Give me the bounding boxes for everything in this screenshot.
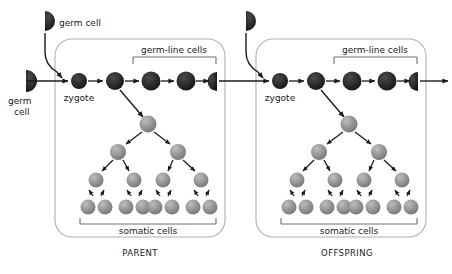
parent-somatic-l3-1 xyxy=(89,173,104,188)
parent-somatic-arrow-l2-l3-d xyxy=(183,160,195,171)
parent-somatic-l4-3 xyxy=(119,200,134,215)
offspring-somatic-arrow-l2-l3-a xyxy=(303,160,314,171)
offspring-caption: OFFSPRING xyxy=(321,248,373,258)
offspring-somatic-arrow-l3-l4-g xyxy=(395,190,399,196)
parent-somatic-l3-2 xyxy=(127,173,142,188)
parent-somatic-l2-1 xyxy=(110,144,126,160)
offspring-somatic-arrow-l2-l3-d xyxy=(384,160,396,171)
offspring-somatic-arrow-l2-l3-c xyxy=(369,160,374,171)
parent-somatic-arrow-l2-l3-a xyxy=(102,160,113,171)
parent-germline-bracket xyxy=(133,57,216,64)
parent-somatic-l4-7 xyxy=(186,200,201,215)
offspring-somatic-arrow-l1-l2-a xyxy=(327,132,343,144)
top-left-germ-cell-label: germ cell xyxy=(59,18,101,28)
offspring-germline-label: germ-line cells xyxy=(342,45,408,55)
offspring-somatic-label: somatic cells xyxy=(320,226,379,236)
parent-somatic-arrow-l1-l2-b xyxy=(154,132,170,144)
left-germ-cell-label-line1: germ xyxy=(8,96,32,106)
parent-somatic-l2-2 xyxy=(170,144,186,160)
parent-somatic-branch-arrow xyxy=(120,90,143,117)
parent-somatic-l4-5 xyxy=(148,200,163,215)
parent-somatic-arrow-l2-l3-b xyxy=(123,160,129,171)
offspring-somatic-arrow-l3-l4-b xyxy=(302,190,305,196)
offspring-somatic-l4-3 xyxy=(320,200,335,215)
parent-caption: PARENT xyxy=(122,248,158,258)
parent-somatic-arrow-l3-l4-g xyxy=(194,190,198,196)
parent-germline-cell-2 xyxy=(106,72,124,90)
left-germ-cell-label-line2: cell xyxy=(14,107,30,117)
offspring-somatic-l2-1 xyxy=(311,144,327,160)
offspring-somatic-l4-2 xyxy=(299,200,314,215)
parent-somatic-arrow-l3-l4-f xyxy=(168,190,171,196)
offspring-somatic-arrow-l2-l3-b xyxy=(324,160,330,171)
offspring-germline-bracket xyxy=(334,57,417,64)
parent-zygote-cell xyxy=(71,73,87,89)
lineage-diagram-svg: germ cell germ cell germ-line cells zygo… xyxy=(0,0,452,274)
parent-somatic-arrow-l3-l4-a xyxy=(89,190,93,196)
offspring-somatic-arrow-l1-l2-b xyxy=(355,132,371,144)
parent-somatic-arrow-l3-l4-c xyxy=(127,190,131,196)
parent-somatic-l3-3 xyxy=(156,173,171,188)
offspring-somatic-l4-8 xyxy=(404,200,419,215)
parent-somatic-arrow-l3-l4-h xyxy=(206,190,209,196)
parent-germline-cell-3 xyxy=(142,72,161,91)
parent-somatic-l4-6 xyxy=(165,200,180,215)
parent-somatic-l4-2 xyxy=(98,200,113,215)
parent-somatic-arrow-l2-l3-c xyxy=(168,160,173,171)
parent-somatic-arrow-l1-l2-a xyxy=(126,132,142,144)
offspring-somatic-arrow-l3-l4-h xyxy=(407,190,410,196)
diagram-canvas: germ cell germ cell germ-line cells zygo… xyxy=(0,0,452,274)
offspring-zygote-cell xyxy=(272,73,288,89)
parent-somatic-l3-4 xyxy=(194,173,209,188)
offspring-somatic-arrow-l3-l4-f xyxy=(369,190,372,196)
parent-somatic-label: somatic cells xyxy=(119,226,178,236)
parent-somatic-arrow-l3-l4-d xyxy=(139,190,142,196)
offspring-somatic-arrow-l3-l4-d xyxy=(340,190,343,196)
parent-germline-label: germ-line cells xyxy=(141,45,207,55)
parent-zygote-label: zygote xyxy=(64,93,95,103)
offspring-germline-cell-3 xyxy=(343,72,362,91)
offspring-somatic-bracket xyxy=(281,218,417,224)
parent-panel: germ-line cells zygote xyxy=(64,45,218,236)
offspring-somatic-arrow-l3-l4-e xyxy=(357,190,361,196)
offspring-somatic-arrow-l3-l4-a xyxy=(290,190,294,196)
offspring-somatic-arrow-l3-l4-c xyxy=(328,190,332,196)
offspring-somatic-l4-6 xyxy=(366,200,381,215)
offspring-somatic-l4-1 xyxy=(282,200,297,215)
parent-germline-cell-4 xyxy=(177,72,196,91)
parent-somatic-l1-1 xyxy=(140,116,157,133)
offspring-germline-cell-2 xyxy=(307,72,325,90)
offspring-somatic-l1-1 xyxy=(341,116,358,133)
top-left-germ-cell-arrow xyxy=(45,33,62,78)
parent-somatic-bracket xyxy=(80,218,216,224)
parent-somatic-l4-1 xyxy=(81,200,96,215)
offspring-somatic-l2-2 xyxy=(371,144,387,160)
offspring-somatic-branch-arrow xyxy=(321,90,344,117)
top-left-germ-cell-icon xyxy=(45,11,55,31)
offspring-somatic-l3-4 xyxy=(395,173,410,188)
offspring-germline-cell-4 xyxy=(378,72,397,91)
top-right-germ-cell-icon xyxy=(246,11,256,31)
offspring-somatic-l3-2 xyxy=(328,173,343,188)
parent-somatic-arrow-l3-l4-b xyxy=(101,190,104,196)
offspring-zygote-label: zygote xyxy=(265,93,296,103)
offspring-panel: germ-line cells zygote xyxy=(265,45,419,236)
offspring-somatic-l3-1 xyxy=(290,173,305,188)
top-right-germ-cell-arrow xyxy=(246,33,263,78)
parent-somatic-l4-8 xyxy=(203,200,218,215)
parent-somatic-arrow-l3-l4-e xyxy=(156,190,160,196)
offspring-somatic-l4-5 xyxy=(349,200,364,215)
offspring-somatic-l4-7 xyxy=(387,200,402,215)
offspring-somatic-l3-3 xyxy=(357,173,372,188)
